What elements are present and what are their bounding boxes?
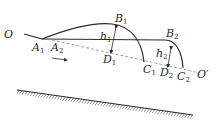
ground-line <box>17 90 193 115</box>
label-d2: D2 <box>159 66 173 80</box>
label-c1: C1 <box>143 63 156 77</box>
h2-arrow <box>168 48 171 66</box>
label-d1: D1 <box>102 53 116 67</box>
label-h2: h2 <box>156 47 168 61</box>
label-b2: B2 <box>165 27 179 41</box>
label-h1: h1 <box>100 30 112 44</box>
label-a2: A2 <box>50 41 63 55</box>
segment-o-a1 <box>24 34 42 39</box>
label-o-prime: O′ <box>197 68 209 81</box>
label-c2: C2 <box>177 70 190 84</box>
label-o: O <box>4 28 13 41</box>
direction-arrow <box>52 58 66 60</box>
projectile-trajectory-diagram: O A1 A2 B1 B2 h1 h2 D1 D2 C1 C2 O′ <box>0 0 217 124</box>
label-b1: B1 <box>114 12 128 26</box>
dashed-line-oo-prime <box>52 40 200 73</box>
label-a1: A1 <box>31 41 44 55</box>
